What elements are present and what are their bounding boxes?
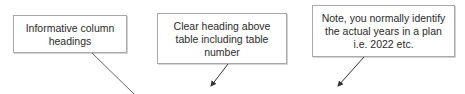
connector-arrows — [0, 0, 465, 94]
arrow-table-heading — [211, 64, 228, 86]
pointer-line-column-headings — [92, 53, 134, 94]
arrow-years-note — [338, 57, 364, 86]
